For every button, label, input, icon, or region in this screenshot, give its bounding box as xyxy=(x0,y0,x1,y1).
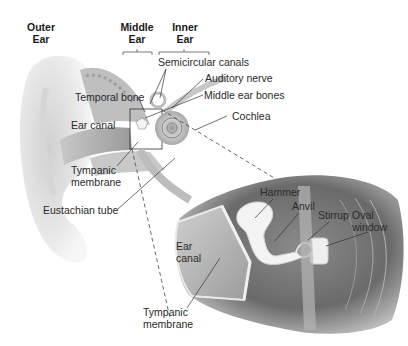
label-semicircular-canals: Semicircular canals xyxy=(158,56,249,68)
label-ear-canal: Ear canal xyxy=(71,119,115,131)
label-temporal-bone: Temporal bone xyxy=(75,91,144,103)
cochlea-shape xyxy=(155,111,189,145)
ear-anatomy-illustration xyxy=(0,0,408,346)
label-tympanic-membrane: Tympanic membrane xyxy=(71,164,121,188)
label-detail-ear-canal: Ear canal xyxy=(176,240,201,264)
region-brackets xyxy=(123,49,209,55)
label-anvil: Anvil xyxy=(292,200,315,212)
label-hammer: Hammer xyxy=(260,186,300,198)
header-middle-ear: Middle Ear xyxy=(118,21,156,45)
header-inner-ear: Inner Ear xyxy=(166,21,204,45)
label-stirrup: Stirrup xyxy=(318,209,349,221)
label-middle-ear-bones: Middle ear bones xyxy=(204,89,285,101)
label-detail-tympanic-membrane: Tympanic membrane xyxy=(143,306,193,330)
label-cochlea: Cochlea xyxy=(232,110,271,122)
header-outer-ear: Outer Ear xyxy=(22,21,60,45)
label-auditory-nerve: Auditory nerve xyxy=(205,72,273,84)
outer-ear-shape xyxy=(20,56,93,262)
eustachian-tube-shape xyxy=(140,150,190,200)
label-oval-window: Oval window xyxy=(352,209,387,233)
middle-ear-detail xyxy=(176,175,404,334)
label-eustachian-tube: Eustachian tube xyxy=(43,204,118,216)
semicircular-canals-shape xyxy=(151,93,165,107)
